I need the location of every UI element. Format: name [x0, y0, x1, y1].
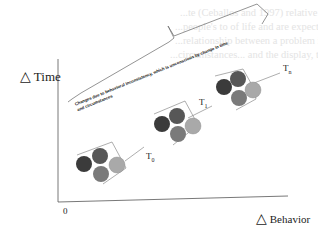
cluster-t0: [76, 142, 144, 184]
circle-medium: [231, 90, 247, 106]
circle-light: [245, 82, 261, 98]
time-label-tn: Tn: [283, 63, 292, 75]
circle-light: [109, 157, 125, 173]
circle-medium-dark: [92, 148, 108, 164]
circle-medium: [170, 126, 186, 142]
circle-light: [185, 118, 201, 134]
delta-icon: △: [20, 68, 31, 84]
circle-medium: [93, 166, 109, 182]
origin-label: 0: [63, 206, 68, 216]
y-axis-label: △Time: [20, 68, 61, 85]
cluster-tn: [215, 69, 280, 110]
circle-dark: [216, 79, 232, 95]
circle-medium-dark: [169, 108, 185, 124]
circle-dark: [154, 116, 170, 132]
diagram-canvas: [0, 0, 318, 232]
time-label-t1: T1: [199, 97, 208, 109]
circle-medium-dark: [230, 71, 246, 87]
delta-icon: △: [256, 210, 267, 226]
time-label-t0: T0: [146, 151, 155, 163]
y-axis-label-text: Time: [34, 69, 61, 84]
x-axis-label-text: Behavior: [270, 213, 310, 225]
x-axis-label: △Behavior: [256, 210, 310, 226]
circle-dark: [76, 156, 92, 172]
x-axis: [58, 196, 288, 202]
